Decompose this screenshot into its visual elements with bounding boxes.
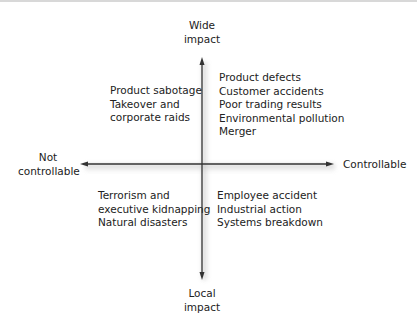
up-arrow-icon bbox=[200, 57, 205, 65]
list-item: Industrial action bbox=[217, 203, 323, 217]
right-axis-label: Controllable bbox=[343, 158, 406, 172]
label-line: Controllable bbox=[343, 158, 406, 172]
label-line: impact bbox=[180, 33, 224, 47]
list-item: Product defects bbox=[219, 71, 344, 85]
list-item: Employee accident bbox=[217, 189, 323, 203]
list-item: Poor trading results bbox=[219, 98, 344, 112]
label-line: controllable bbox=[18, 165, 78, 179]
list-item: Takeover and bbox=[110, 98, 202, 112]
list-item: Product sabotage bbox=[110, 84, 202, 98]
quadrant-top-left: Product sabotage Takeover and corporate … bbox=[110, 84, 202, 125]
top-axis-label: Wide impact bbox=[180, 19, 224, 46]
list-item: Systems breakdown bbox=[217, 216, 323, 230]
down-arrow-icon bbox=[200, 272, 205, 280]
left-axis-label: Not controllable bbox=[18, 151, 78, 178]
quadrant-top-right: Product defects Customer accidents Poor … bbox=[219, 71, 344, 139]
label-line: Not bbox=[18, 151, 78, 165]
right-arrow-icon bbox=[326, 162, 334, 167]
quadrant-bottom-right: Employee accident Industrial action Syst… bbox=[217, 189, 323, 230]
label-line: Local bbox=[180, 287, 224, 301]
list-item: Natural disasters bbox=[98, 216, 210, 230]
list-item: Terrorism and bbox=[98, 189, 210, 203]
list-item: executive kidnapping bbox=[98, 203, 210, 217]
list-item: corporate raids bbox=[110, 111, 202, 125]
label-line: Wide bbox=[180, 19, 224, 33]
label-line: impact bbox=[180, 301, 224, 315]
list-item: Environmental pollution bbox=[219, 112, 344, 126]
list-item: Customer accidents bbox=[219, 85, 344, 99]
left-arrow-icon bbox=[80, 162, 88, 167]
list-item: Merger bbox=[219, 125, 344, 139]
bottom-axis-label: Local impact bbox=[180, 287, 224, 314]
quadrant-bottom-left: Terrorism and executive kidnapping Natur… bbox=[98, 189, 210, 230]
